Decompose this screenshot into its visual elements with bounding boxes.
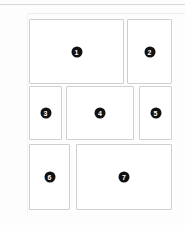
- placeholder-box-1[interactable]: 1: [29, 19, 124, 84]
- box-number-badge-1: 1: [71, 46, 82, 57]
- box-number-badge-2: 2: [144, 46, 155, 57]
- left-gutter-edge: [27, 14, 28, 214]
- placeholder-box-5[interactable]: 5: [139, 86, 172, 140]
- box-number-badge-7: 7: [119, 172, 130, 183]
- box-number-badge-3: 3: [40, 108, 51, 119]
- box-number-badge-6: 6: [44, 172, 55, 183]
- placeholder-box-3[interactable]: 3: [29, 86, 62, 140]
- placeholder-box-4[interactable]: 4: [66, 86, 134, 140]
- placeholder-box-6[interactable]: 6: [29, 144, 70, 210]
- placeholder-box-2[interactable]: 2: [127, 19, 172, 84]
- secondary-divider-rule: [28, 13, 185, 14]
- box-number-badge-5: 5: [150, 108, 161, 119]
- placeholder-box-7[interactable]: 7: [76, 144, 172, 210]
- wireframe-canvas: 1 2 3 4 5 6 7: [0, 0, 185, 225]
- top-divider-rule: [0, 4, 185, 5]
- box-number-badge-4: 4: [95, 108, 106, 119]
